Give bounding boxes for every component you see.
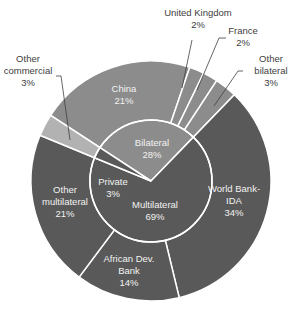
chart-canvas: Bilateral28%Multilateral69%Private3%Chin… (0, 0, 298, 327)
sunburst-chart: Bilateral28%Multilateral69%Private3%Chin… (0, 0, 298, 327)
outer-label-china: China21% (112, 83, 138, 106)
outer-label-united-kingdom: United Kingdom2% (164, 7, 232, 30)
outer-label-other-commercial: Othercommercial3% (4, 53, 53, 88)
outer-label-france: France2% (228, 25, 258, 48)
outer-label-other-bilateral: Otherbilateral3% (254, 53, 287, 88)
